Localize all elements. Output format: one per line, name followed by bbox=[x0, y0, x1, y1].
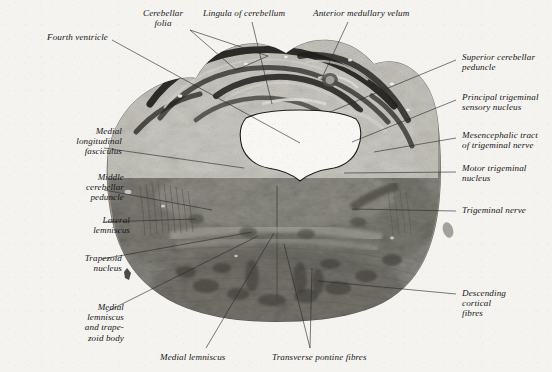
label-motor-trigeminal-nucleus: Motor trigeminal nucleus bbox=[462, 163, 527, 183]
label-fourth-ventricle: Fourth ventricle bbox=[8, 32, 108, 42]
label-medial-lemniscus-and-trapezoid-body: Medial lemniscus and trape- zoid body bbox=[24, 302, 124, 343]
label-trapezoid-nucleus: Trapezoid nucleus bbox=[22, 253, 122, 273]
label-lateral-lemniscus: Lateral lemniscus bbox=[30, 215, 130, 235]
label-cerebellar-folia: Cerebellar folia bbox=[143, 8, 183, 28]
specimen bbox=[100, 34, 450, 335]
label-trigeminal-nerve: Trigeminal nerve bbox=[462, 205, 526, 215]
label-transverse-pontine-fibres: Transverse pontine fibres bbox=[272, 352, 367, 362]
label-medial-lemniscus: Medial lemniscus bbox=[160, 352, 226, 362]
label-mesencephalic-tract-of-trigeminal-nerve: Mesencephalic tract of trigeminal nerve bbox=[462, 130, 538, 150]
tissue-fleck-2 bbox=[124, 268, 131, 280]
tissue-fleck bbox=[441, 221, 455, 239]
label-anterior-medullary-velum: Anterior medullary velum bbox=[313, 8, 409, 18]
label-principal-trigeminal-sensory-nucleus: Principal trigeminal sensory nucleus bbox=[462, 92, 539, 112]
label-descending-cortical-fibres: Descending cortical fibres bbox=[462, 288, 506, 319]
label-lingula-of-cerebellum: Lingula of cerebellum bbox=[203, 8, 285, 18]
label-medial-longitudinal-fasciculus: Medial longitudinal fasciculus bbox=[22, 126, 122, 157]
label-superior-cerebellar-peduncle: Superior cerebellar peduncle bbox=[462, 52, 535, 72]
anatomical-plate: Fourth ventricleCerebellar foliaLingula … bbox=[0, 0, 552, 372]
label-middle-cerebellar-peduncle: Middle cerebellar peduncle bbox=[24, 172, 124, 203]
